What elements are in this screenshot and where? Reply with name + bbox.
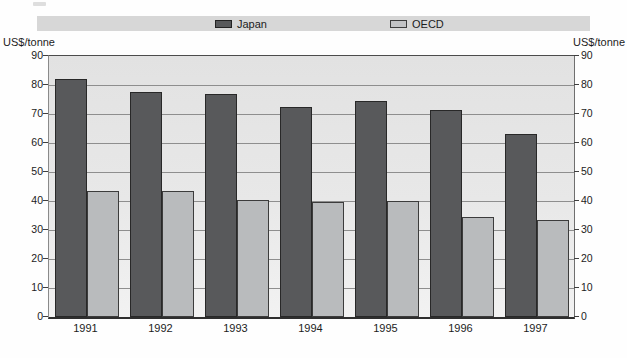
y-tick-right-60: 60 [581,136,621,148]
y-tick-right-90: 90 [581,49,621,61]
tick-mark-right-40 [574,200,579,201]
legend-label-oecd: OECD [412,18,444,30]
tick-mark-left-20 [43,258,48,259]
x-tick-1992: 1992 [123,322,198,334]
oecd-swatch-icon [390,20,407,28]
tick-mark-right-0 [574,316,579,317]
tick-mark-right-80 [574,84,579,85]
tick-mark-right-60 [574,142,579,143]
plot-area [48,55,575,319]
bar-oecd-1994 [312,202,344,317]
japan-swatch-icon [215,20,232,28]
y-tick-left-60: 60 [0,136,43,148]
bar-oecd-1993 [237,200,269,317]
tick-mark-left-60 [43,142,48,143]
legend: Japan OECD [37,16,590,31]
y-tick-right-70: 70 [581,107,621,119]
y-tick-left-70: 70 [0,107,43,119]
legend-label-japan: Japan [237,18,267,30]
legend-item-oecd: OECD [390,16,444,31]
tick-mark-left-30 [43,229,48,230]
y-tick-left-90: 90 [0,49,43,61]
y-tick-left-10: 10 [0,281,43,293]
y-tick-right-40: 40 [581,194,621,206]
bar-japan-1995 [355,101,387,317]
tick-mark-right-10 [574,287,579,288]
x-tick-1997: 1997 [498,322,573,334]
bar-japan-1997 [505,134,537,317]
y-tick-right-30: 30 [581,223,621,235]
legend-item-japan: Japan [215,16,267,31]
tick-mark-right-50 [574,171,579,172]
tick-mark-right-90 [574,55,579,56]
x-tick-1996: 1996 [423,322,498,334]
y-tick-right-80: 80 [581,78,621,90]
scan-artifact [33,2,46,6]
bar-oecd-1997 [537,220,569,317]
bar-japan-1991 [55,79,87,317]
bar-oecd-1996 [462,217,494,317]
y-tick-right-50: 50 [581,165,621,177]
y-tick-right-10: 10 [581,281,621,293]
tick-mark-left-70 [43,113,48,114]
tick-mark-left-80 [43,84,48,85]
gridline-60 [49,143,574,144]
y-tick-right-20: 20 [581,252,621,264]
y-tick-left-40: 40 [0,194,43,206]
tick-mark-left-50 [43,171,48,172]
gridline-70 [49,114,574,115]
y-tick-left-20: 20 [0,252,43,264]
y-tick-right-0: 0 [581,310,621,322]
bar-japan-1996 [430,110,462,317]
x-tick-1991: 1991 [48,322,123,334]
x-tick-1993: 1993 [198,322,273,334]
bar-oecd-1992 [162,191,194,317]
bar-oecd-1995 [387,201,419,317]
x-tick-1995: 1995 [348,322,423,334]
bar-japan-1992 [130,92,162,317]
gridline-80 [49,85,574,86]
y-axis-unit-left: US$/tonne [3,36,63,48]
bar-japan-1994 [280,107,312,317]
bar-japan-1993 [205,94,237,317]
tick-mark-left-90 [43,55,48,56]
y-tick-left-30: 30 [0,223,43,235]
tick-mark-right-20 [574,258,579,259]
tick-mark-left-0 [43,316,48,317]
tick-mark-right-30 [574,229,579,230]
y-tick-left-80: 80 [0,78,43,90]
chart-page: Japan OECD US$/tonne US$/tonne 001010202… [0,0,627,358]
x-tick-1994: 1994 [273,322,348,334]
bar-oecd-1991 [87,191,119,317]
tick-mark-right-70 [574,113,579,114]
tick-mark-left-40 [43,200,48,201]
gridline-50 [49,172,574,173]
y-tick-left-0: 0 [0,310,43,322]
y-axis-unit-right: US$/tonne [565,36,625,48]
y-tick-left-50: 50 [0,165,43,177]
tick-mark-left-10 [43,287,48,288]
